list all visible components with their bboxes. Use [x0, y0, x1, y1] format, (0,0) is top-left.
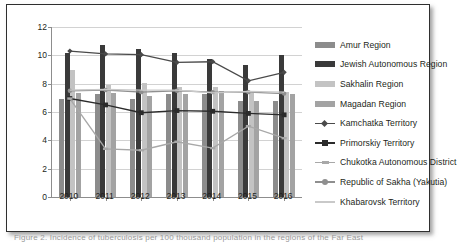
line-marker: [210, 59, 215, 64]
legend-swatch-icon: [315, 81, 335, 87]
legend-item-label: Kamchatka Territory: [340, 118, 417, 128]
y-axis-tick-label: 10: [23, 50, 47, 60]
x-axis-tick-label: 2016: [266, 191, 300, 201]
legend-line-marker: [322, 161, 329, 164]
legend-item-label: Republic of Sakha (Yakutia): [340, 177, 447, 187]
legend-swatch-icon: [315, 61, 335, 67]
line-marker: [139, 110, 144, 115]
figure-caption: Figure 2. Incidence of tuberculosis per …: [14, 233, 424, 242]
legend-item[interactable]: Chukotka Autonomous District: [315, 153, 461, 173]
legend-line-stroke: [315, 201, 335, 203]
figure-frame: 024681012 2010201120122013201420152016 A…: [6, 4, 430, 232]
line-marker: [246, 111, 251, 116]
line-marker: [67, 97, 72, 99]
legend-item-label: Chukotka Autonomous District: [340, 157, 457, 167]
line-marker: [174, 141, 179, 143]
y-axis-tick-label: 6: [23, 107, 47, 117]
legend-item-label: Jewish Autonomous Region: [340, 59, 447, 69]
x-axis-tick-label: 2013: [159, 191, 193, 201]
x-axis-tick-label: 2015: [230, 191, 264, 201]
legend-item-label: Primorskiy Territory: [340, 138, 414, 148]
y-axis-tick-label: 4: [23, 135, 47, 145]
line-marker: [139, 52, 144, 57]
y-axis-tick-label: 2: [23, 164, 47, 174]
legend-item-label: Sakhalin Region: [340, 79, 403, 89]
legend-line-marker: [322, 179, 328, 185]
line-marker: [68, 89, 72, 93]
legend-item-label: Khabarovsk Territory: [340, 197, 420, 207]
line-marker: [282, 70, 287, 75]
line-marker: [246, 125, 251, 127]
legend-item-label: Magadan Region: [340, 99, 406, 109]
legend-item[interactable]: Republic of Sakha (Yakutia): [315, 172, 461, 192]
line-series: [70, 51, 284, 81]
line-marker: [103, 88, 107, 92]
legend-line-marker: [321, 120, 328, 127]
line-marker: [282, 137, 287, 139]
legend-item[interactable]: Jewish Autonomous Region: [315, 55, 461, 75]
line-marker: [103, 103, 108, 108]
legend-item[interactable]: Khabarovsk Territory: [315, 192, 461, 212]
y-axis-tick-label: 0: [23, 192, 47, 202]
legend-line-icon: [315, 197, 335, 207]
legend-item[interactable]: Sakhalin Region: [315, 74, 461, 94]
legend-line-icon: [315, 118, 335, 128]
line-marker: [139, 149, 144, 151]
legend-line-marker: [322, 140, 328, 146]
line-series-overlay: [52, 27, 302, 197]
chart-legend: Amur RegionJewish Autonomous RegionSakha…: [315, 35, 461, 211]
line-marker: [103, 51, 108, 56]
legend-item-label: Amur Region: [340, 40, 391, 50]
legend-swatch-icon: [315, 42, 335, 48]
x-axis-tick-label: 2011: [88, 191, 122, 201]
legend-item[interactable]: Kamchatka Territory: [315, 113, 461, 133]
legend-line-icon: [315, 138, 335, 148]
x-axis-tick-label: 2012: [123, 191, 157, 201]
line-marker: [246, 78, 251, 83]
x-axis-tick-label: 2010: [52, 191, 86, 201]
plot-area: [51, 27, 302, 198]
line-marker: [210, 147, 215, 149]
line-marker: [282, 112, 287, 117]
chart-canvas: 024681012 2010201120122013201420152016 A…: [19, 15, 419, 229]
line-marker: [175, 108, 180, 113]
legend-item[interactable]: Magadan Region: [315, 94, 461, 114]
y-axis-tick-label: 12: [23, 22, 47, 32]
line-marker: [210, 109, 215, 114]
legend-line-icon: [315, 177, 335, 187]
x-axis-tick-label: 2014: [195, 191, 229, 201]
line-marker: [103, 148, 108, 150]
line-marker: [174, 60, 179, 65]
y-axis-tick-label: 8: [23, 79, 47, 89]
legend-item[interactable]: Primorskiy Territory: [315, 133, 461, 153]
legend-line-icon: [315, 157, 335, 167]
legend-item[interactable]: Amur Region: [315, 35, 461, 55]
line-marker: [67, 48, 72, 53]
legend-swatch-icon: [315, 101, 335, 107]
